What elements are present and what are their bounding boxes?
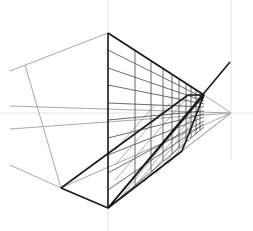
perspective-diagram — [0, 0, 253, 231]
faint-axes — [0, 0, 253, 231]
bold-outlines — [61, 33, 230, 208]
